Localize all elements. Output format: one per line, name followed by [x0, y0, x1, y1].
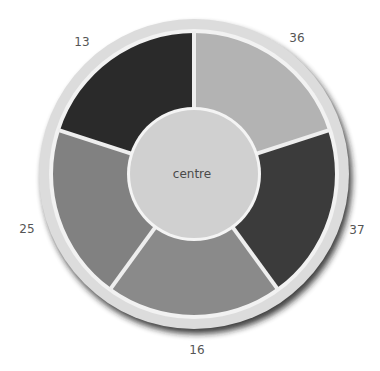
slice-label-37: 37: [349, 223, 364, 237]
slice-label-13: 13: [74, 35, 89, 49]
slice-label-36: 36: [289, 31, 304, 45]
donut-chart: centre 3637162513: [0, 0, 380, 371]
slice-label-16: 16: [189, 343, 204, 357]
centre-label: centre: [173, 167, 211, 181]
slice-label-25: 25: [19, 222, 34, 236]
